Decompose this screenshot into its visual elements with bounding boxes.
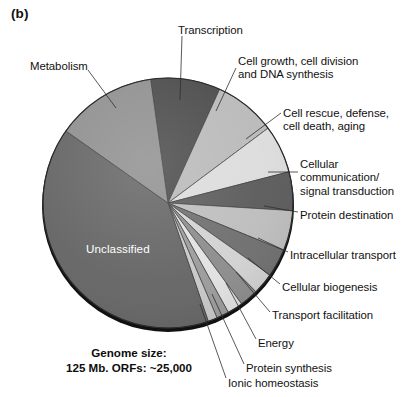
- slice-label-unclassified: Unclassified: [86, 242, 150, 255]
- pie-shading-overlay: [43, 78, 293, 328]
- caption-line-1: Genome size:: [91, 346, 166, 359]
- pie-label-intracellular-transport: Intracellular transport: [290, 249, 396, 262]
- pie-label-transport-facilitation: Transport facilitation: [272, 309, 373, 322]
- pie-label-ionic-homeostasis: Ionic homeostasis: [228, 377, 318, 390]
- pie-label-protein-synthesis: Protein synthesis: [246, 362, 332, 375]
- pie-label-transcription: Transcription: [178, 24, 243, 37]
- pie-label-energy: Energy: [258, 337, 294, 350]
- genome-size-caption: Genome size: 125 Mb. ORFs: ~25,000: [34, 345, 224, 375]
- caption-line-2: 125 Mb. ORFs: ~25,000: [66, 361, 192, 374]
- pie-label-cell-rescue: Cell rescue, defense, cell death, aging: [283, 107, 389, 134]
- pie-label-metabolism: Metabolism: [30, 60, 88, 73]
- pie-label-protein-destination: Protein destination: [300, 209, 393, 222]
- pie-label-cellular-comm: Cellular communication/ signal transduct…: [300, 158, 394, 198]
- pie-label-cell-growth: Cell growth, cell division and DNA synth…: [238, 55, 358, 82]
- pie-label-cellular-biogenesis: Cellular biogenesis: [282, 281, 377, 294]
- figure-panel: (b) MetabolismTranscriptionCell growth, …: [0, 0, 410, 397]
